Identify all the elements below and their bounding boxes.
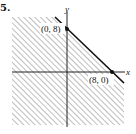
problem-number: 5. <box>0 2 10 13</box>
shaded-region <box>12 17 124 125</box>
graph-figure: 5. y x (0, 8) (8, 0) <box>0 0 136 134</box>
point-8-0 <box>110 70 114 74</box>
point-label-8-0: (8, 0) <box>89 75 109 85</box>
inequality-graph: y x (0, 8) (8, 0) <box>0 0 136 134</box>
point-label-0-8: (0, 8) <box>41 24 61 34</box>
point-0-8 <box>65 27 69 31</box>
x-axis-label: x <box>125 67 130 77</box>
y-axis-label: y <box>64 4 69 14</box>
